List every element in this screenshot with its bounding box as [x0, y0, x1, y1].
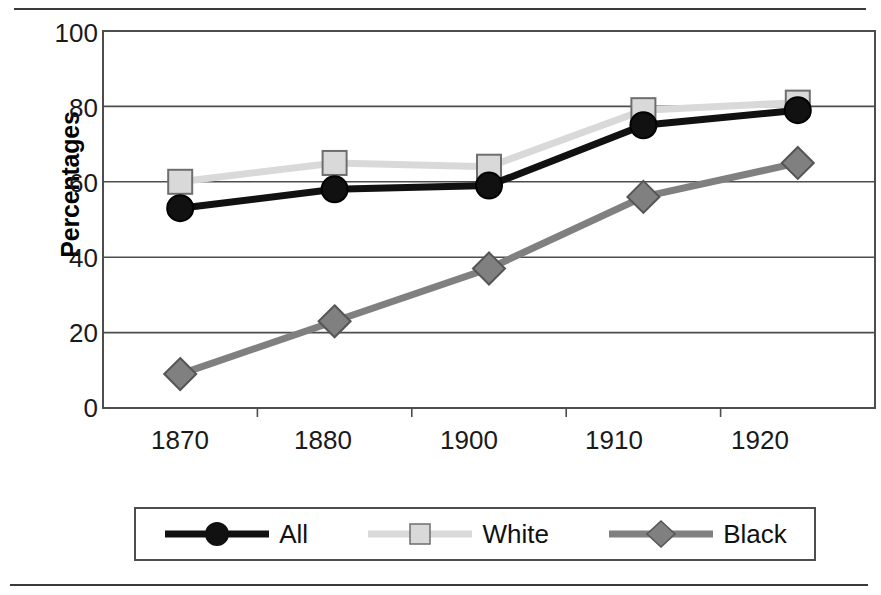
x-axis-ticks [257, 408, 720, 417]
data-point-all-1920 [785, 97, 811, 123]
data-point-white-1870 [168, 170, 192, 194]
legend-item-white[interactable]: White [366, 519, 548, 550]
data-point-all-1880 [322, 176, 348, 202]
chart-figure: Percentages 100 80 60 40 20 0 1870 1880 … [0, 0, 881, 595]
legend-item-black[interactable]: Black [607, 519, 787, 550]
series-layer [164, 91, 814, 390]
data-point-black-1920 [782, 147, 814, 179]
data-point-white-1880 [323, 151, 347, 175]
data-point-black-1910 [627, 181, 659, 213]
legend-label-white: White [482, 519, 548, 550]
data-point-all-1870 [167, 195, 193, 221]
plot-frame [103, 31, 875, 408]
data-point-all-1900 [476, 173, 502, 199]
data-point-black-1870 [164, 358, 196, 390]
legend-marker-square-icon [366, 520, 474, 548]
legend-label-black: Black [723, 519, 787, 550]
legend-item-all[interactable]: All [163, 519, 308, 550]
gridlines [103, 106, 875, 332]
legend-label-all: All [279, 519, 308, 550]
legend-marker-diamond-icon [607, 520, 715, 548]
data-point-all-1910 [630, 112, 656, 138]
legend: All White Black [134, 507, 816, 561]
plot-area [0, 0, 881, 595]
legend-marker-circle-icon [163, 520, 271, 548]
